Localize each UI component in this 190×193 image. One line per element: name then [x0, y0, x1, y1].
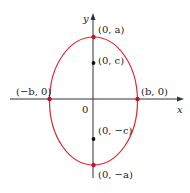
y-axis-label: y — [82, 13, 89, 24]
left-vertex-label: (−b, 0) — [16, 86, 51, 97]
ellipse-diagram: y x 0 (0, a) (0, c) (−b, 0) (b, 0) (0, −… — [0, 0, 190, 193]
lower-focus-label: (0, −c) — [98, 125, 133, 136]
y-axis-arrow-icon — [91, 13, 96, 20]
lower-focus-point — [92, 137, 96, 141]
x-axis-label: x — [177, 104, 183, 115]
bottom-vertex-label: (0, −a) — [98, 169, 133, 180]
upper-focus-label: (0, c) — [98, 55, 124, 66]
origin-label: 0 — [82, 104, 88, 115]
top-vertex-label: (0, a) — [98, 24, 125, 35]
bottom-vertex-point — [91, 163, 95, 167]
upper-focus-point — [92, 61, 96, 65]
x-axis-arrow-icon — [177, 97, 184, 102]
right-vertex-point — [135, 97, 139, 101]
left-vertex-point — [47, 97, 51, 101]
top-vertex-point — [91, 35, 95, 39]
right-vertex-label: (b, 0) — [141, 86, 168, 97]
